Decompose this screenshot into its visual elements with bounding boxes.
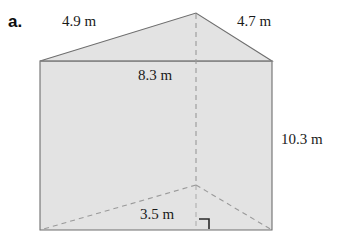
- dimension-label-height: 10.3 m: [281, 132, 323, 147]
- dimension-label-depth: 3.5 m: [140, 207, 174, 222]
- dimension-label-width: 8.3 m: [138, 68, 172, 83]
- front-rectangular-face: [40, 61, 272, 230]
- figure-container: a. 4.9 m 4.7 m 8.3 m 10.3 m 3.5 m: [0, 0, 356, 243]
- dimension-label-left-slope: 4.9 m: [62, 14, 96, 29]
- triangular-prism-diagram: [0, 0, 356, 243]
- dimension-label-right-slope: 4.7 m: [237, 14, 271, 29]
- part-label: a.: [8, 13, 22, 30]
